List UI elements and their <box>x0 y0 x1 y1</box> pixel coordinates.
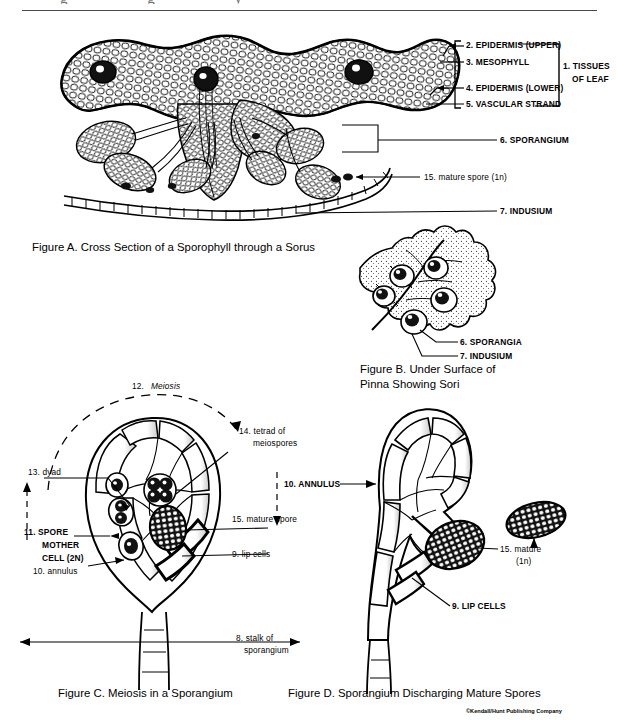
label-indusium: 7. INDUSIUM <box>500 206 552 217</box>
label-lip-cells-d: 9. LIP CELLS <box>452 601 506 612</box>
label-spore-mother-cell-line1: 11. SPORE <box>24 527 68 538</box>
label-tissues-of-leaf-line1: 1. TISSUES <box>563 61 610 72</box>
figure-a-caption: Figure A. Cross Section of a Sporophyll … <box>32 240 315 254</box>
label-indusium-b: 7. INDUSIUM <box>460 351 512 362</box>
label-stalk-line1: 8. stalk of <box>236 633 273 644</box>
page-canvas: g g y <box>0 0 617 727</box>
label-epidermis-lower: 4. EPIDERMIS (LOWER) <box>466 83 563 94</box>
label-lip-cells-c: 9. lip cells <box>232 549 270 560</box>
label-tetrad-line2: meiospores <box>253 438 297 449</box>
label-vascular-strand: 5. VASCULAR STRAND <box>466 99 561 110</box>
label-mature-d-line1: 15. mature <box>500 544 541 555</box>
label-mature-d-line2: (1n) <box>516 556 531 567</box>
figure-b-caption-line2: Pinna Showing Sori <box>360 377 459 391</box>
label-annulus-d: 10. ANNULUS <box>284 479 340 490</box>
label-epidermis-upper: 2. EPIDERMIS (UPPER) <box>466 40 561 51</box>
label-mesophyll: 3. MESOPHYLL <box>466 57 529 68</box>
label-mature-spore-c: 15. mature spore <box>232 514 297 525</box>
label-mature-spore-1n: 15. mature spore (1n) <box>424 172 507 183</box>
label-dyad: 13. dyad <box>28 467 61 478</box>
label-tetrad-line1: 14. tetrad of <box>239 426 285 437</box>
label-annulus-c: 10. annulus <box>33 566 78 577</box>
label-spore-mother-cell-line3: CELL (2N) <box>42 553 84 564</box>
figure-d-caption: Figure D. Sporangium Discharging Mature … <box>288 686 541 700</box>
publisher-credit: ©Kendall/Hunt Publishing Company <box>466 708 562 714</box>
label-meiosis-number: 12. <box>132 381 144 392</box>
label-sporangia: 6. SPORANGIA <box>460 337 522 348</box>
label-tissues-of-leaf-line2: OF LEAF <box>572 74 609 85</box>
figure-c-caption: Figure C. Meiosis in a Sporangium <box>58 686 233 700</box>
label-meiosis-word: Meiosis <box>151 381 180 392</box>
label-sporangium: 6. SPORANGIUM <box>500 135 569 146</box>
label-spore-mother-cell-line2: MOTHER <box>42 540 79 551</box>
figure-b-caption-line1: Figure B. Under Surface of <box>360 362 496 376</box>
label-stalk-line2: sporangium <box>244 645 289 656</box>
